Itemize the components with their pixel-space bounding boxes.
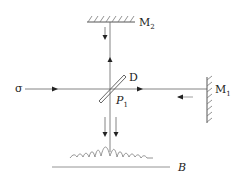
arrow-left-icon: [177, 95, 193, 100]
label-screen: B: [177, 161, 186, 174]
interferometer-diagram: M2 σ M1 D P1: [0, 0, 237, 191]
label-plate: P1: [115, 94, 128, 109]
mirror-m1: [207, 76, 212, 123]
arrow-right-icon: [137, 87, 143, 92]
interference-pattern: [70, 147, 153, 158]
label-m2: M2: [139, 16, 155, 31]
mirror-m2: [87, 16, 135, 22]
arrow-up-icon: [108, 57, 113, 62]
label-source: σ: [15, 82, 23, 95]
label-splitter: D: [129, 71, 138, 84]
label-m1: M1: [215, 83, 231, 98]
arrow-right-icon: [52, 87, 58, 92]
arrow-down-icon: [103, 27, 108, 40]
output-arrows: [103, 117, 119, 137]
